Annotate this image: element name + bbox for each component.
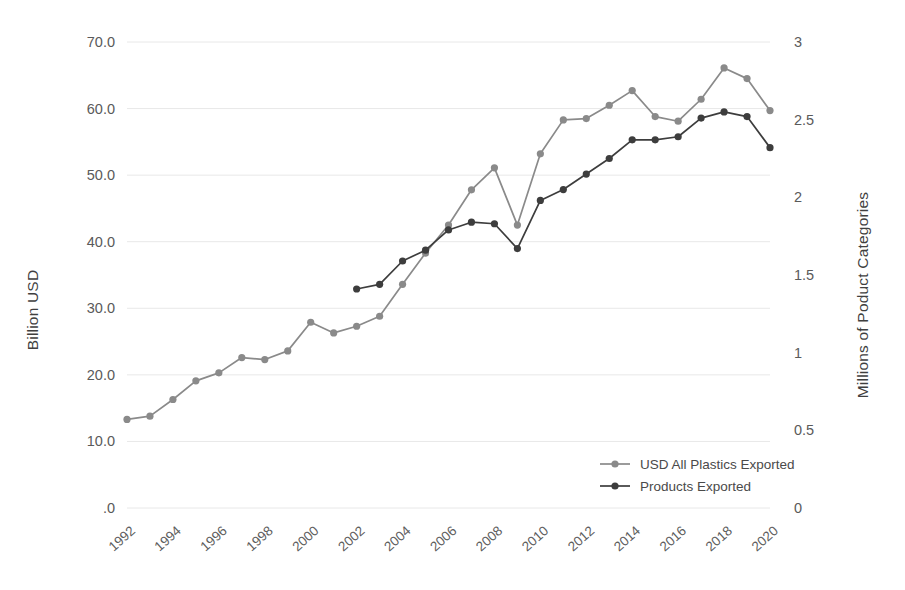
data-point-marker (399, 257, 406, 264)
data-point-marker (698, 115, 705, 122)
data-point-marker (675, 118, 682, 125)
data-point-marker (468, 186, 475, 193)
data-point-marker (376, 313, 383, 320)
data-point-marker (629, 87, 636, 94)
data-point-marker (422, 247, 429, 254)
legend-marker-swatch (611, 482, 618, 489)
chart-background (0, 0, 905, 590)
data-point-marker (146, 413, 153, 420)
data-point-marker (353, 285, 360, 292)
y-axis-tick-label: 60.0 (87, 101, 115, 117)
y-axis-tick-label: 40.0 (87, 234, 115, 250)
data-point-marker (698, 96, 705, 103)
data-point-marker (514, 245, 521, 252)
y-axis-tick-label: .0 (103, 500, 115, 516)
line-chart: .010.020.030.040.050.060.070.0 00.511.52… (0, 0, 905, 590)
data-point-marker (720, 64, 727, 71)
y2-axis-tick-label: 2.5 (794, 112, 814, 128)
data-point-marker (261, 356, 268, 363)
chart-container: .010.020.030.040.050.060.070.0 00.511.52… (0, 0, 905, 590)
data-point-marker (652, 113, 659, 120)
data-point-marker (766, 144, 773, 151)
data-point-marker (192, 377, 199, 384)
y-axis-tick-label: 30.0 (87, 300, 115, 316)
y-axis-tick-label: 70.0 (87, 34, 115, 50)
data-point-marker (491, 164, 498, 171)
y-axis-tick-label: 20.0 (87, 367, 115, 383)
y2-axis-title: Millions of Poduct Categories (854, 192, 871, 399)
data-point-marker (468, 219, 475, 226)
data-point-marker (743, 75, 750, 82)
data-point-marker (376, 281, 383, 288)
data-point-marker (743, 113, 750, 120)
data-point-marker (720, 108, 727, 115)
data-point-marker (606, 155, 613, 162)
y2-axis-tick-label: 2 (794, 189, 802, 205)
data-point-marker (169, 396, 176, 403)
data-point-marker (583, 115, 590, 122)
y2-axis-tick-label: 1 (794, 345, 802, 361)
data-point-marker (629, 136, 636, 143)
y-axis-tick-label: 50.0 (87, 167, 115, 183)
data-point-marker (537, 150, 544, 157)
data-point-marker (284, 347, 291, 354)
data-point-marker (491, 220, 498, 227)
data-point-marker (537, 197, 544, 204)
y2-axis-tick-label: 0.5 (794, 422, 814, 438)
legend-label: USD All Plastics Exported (640, 457, 795, 472)
data-point-marker (675, 133, 682, 140)
data-point-marker (330, 329, 337, 336)
y2-axis-tick-label: 1.5 (794, 267, 814, 283)
data-point-marker (445, 226, 452, 233)
legend-marker-swatch (611, 460, 618, 467)
legend-label: Products Exported (640, 479, 751, 494)
data-point-marker (215, 369, 222, 376)
data-point-marker (583, 170, 590, 177)
data-point-marker (560, 116, 567, 123)
y2-axis-tick-label: 3 (794, 34, 802, 50)
data-point-marker (514, 221, 521, 228)
data-point-marker (353, 323, 360, 330)
y2-axis-tick-label: 0 (794, 500, 802, 516)
data-point-marker (560, 186, 567, 193)
y-axis-title: Billion USD (24, 270, 41, 351)
data-point-marker (238, 354, 245, 361)
data-point-marker (123, 416, 130, 423)
data-point-marker (606, 102, 613, 109)
data-point-marker (307, 319, 314, 326)
data-point-marker (652, 136, 659, 143)
data-point-marker (399, 281, 406, 288)
data-point-marker (766, 107, 773, 114)
y-axis-tick-label: 10.0 (87, 433, 115, 449)
